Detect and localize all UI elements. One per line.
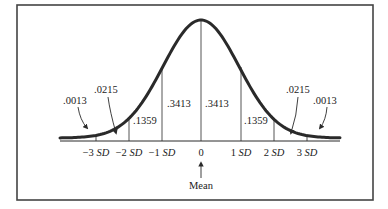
- area-label-outer-right: .0215: [286, 84, 310, 95]
- tick-label: 1 SD: [231, 147, 252, 158]
- area-label-outer-left: .0215: [94, 84, 118, 95]
- area-label-center-right: .3413: [205, 98, 229, 109]
- tick-label: 0: [198, 147, 203, 158]
- bell-curve: [60, 20, 340, 138]
- axis-tick-labels: −3 SD −2 SD −1 SD 0 1 SD 2 SD 3 SD: [83, 147, 318, 158]
- tick-label: 3 SD: [297, 147, 318, 158]
- area-label-tail-left: .0013: [63, 95, 87, 106]
- area-label-tail-right: .0013: [313, 95, 337, 106]
- normal-curve-diagram: .3413 .3413 .1359 .1359 .0215 .0215 .001…: [0, 0, 388, 209]
- tick-label: −3 SD: [83, 147, 110, 158]
- area-label-mid-right: .1359: [244, 115, 268, 126]
- tick-label: −2 SD: [116, 147, 143, 158]
- area-label-mid-left: .1359: [133, 115, 157, 126]
- mean-label: Mean: [189, 180, 214, 191]
- tick-label: 2 SD: [264, 147, 285, 158]
- sd-lines: [96, 21, 307, 141]
- area-label-center-left: .3413: [167, 98, 191, 109]
- tick-label: −1 SD: [149, 147, 176, 158]
